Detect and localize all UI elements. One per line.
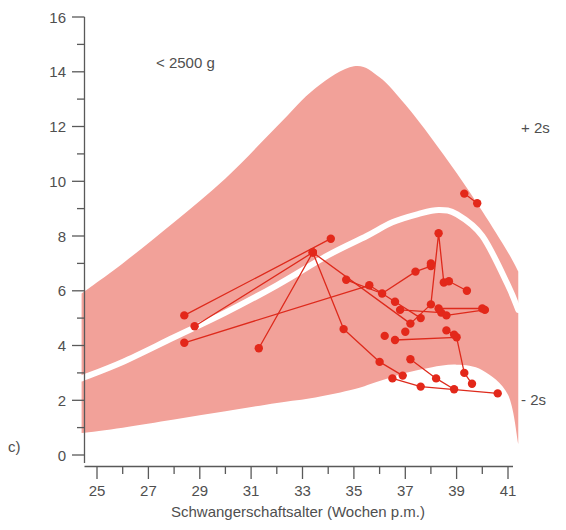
x-tick-label: 29 [191, 482, 208, 499]
x-tick-label: 37 [397, 482, 414, 499]
data-point [494, 389, 502, 397]
y-tick-label: 6 [58, 282, 66, 299]
x-tick-label: 33 [294, 482, 311, 499]
data-point [401, 328, 409, 336]
data-point [434, 229, 442, 237]
y-tick-label: 12 [49, 118, 66, 135]
data-point [339, 325, 347, 333]
data-point [434, 304, 442, 312]
data-point [450, 330, 458, 338]
x-axis-ticks [97, 467, 508, 480]
x-tick-label: 31 [243, 482, 260, 499]
data-point [460, 369, 468, 377]
growth-chart-svg: 0246810121416 252729313335373941 < 2500 … [0, 0, 566, 530]
data-point [417, 314, 425, 322]
data-point [391, 298, 399, 306]
data-point [442, 311, 450, 319]
data-point [399, 371, 407, 379]
data-point [427, 300, 435, 308]
data-point [327, 235, 335, 243]
y-tick-label: 14 [49, 63, 66, 80]
data-point [445, 277, 453, 285]
data-point [406, 319, 414, 327]
x-tick-label: 27 [140, 482, 157, 499]
x-tick-label: 39 [448, 482, 465, 499]
data-point [255, 344, 263, 352]
data-point [180, 339, 188, 347]
y-tick-label: 4 [58, 337, 66, 354]
y-axis: 0246810121416 [49, 9, 84, 464]
data-point [468, 380, 476, 388]
data-point [375, 358, 383, 366]
x-tick-label: 35 [346, 482, 363, 499]
series-line [392, 378, 497, 393]
data-point [378, 289, 386, 297]
data-point [427, 259, 435, 267]
y-tick-label: 8 [58, 228, 66, 245]
x-axis-tick-labels: 252729313335373941 [89, 482, 517, 499]
data-point [388, 374, 396, 382]
upper-limit-label: + 2s [521, 119, 550, 136]
x-tick-label: 41 [500, 482, 517, 499]
x-axis: 252729313335373941 [85, 467, 517, 500]
y-tick-label: 2 [58, 392, 66, 409]
data-point [478, 304, 486, 312]
data-point [463, 287, 471, 295]
data-point [417, 382, 425, 390]
data-point [190, 322, 198, 330]
data-point [180, 311, 188, 319]
x-tick-label: 25 [89, 482, 106, 499]
y-tick-label: 16 [49, 9, 66, 26]
data-point [460, 189, 468, 197]
y-tick-label: 0 [58, 447, 66, 464]
data-point [432, 374, 440, 382]
data-point [391, 336, 399, 344]
data-point [396, 306, 404, 314]
x-axis-title: Schwangerschaftsalter (Wochen p.m.) [171, 503, 425, 520]
chart-container: 0246810121416 252729313335373941 < 2500 … [0, 0, 566, 530]
y-tick-label: 10 [49, 173, 66, 190]
data-point [473, 199, 481, 207]
data-point [381, 332, 389, 340]
data-point [406, 355, 414, 363]
lower-limit-label: - 2s [521, 391, 546, 408]
data-point [411, 267, 419, 275]
data-point [342, 276, 350, 284]
data-point [442, 326, 450, 334]
group-annotation-label: < 2500 g [156, 54, 215, 71]
y-axis-tick-labels: 0246810121416 [49, 9, 66, 464]
panel-label: c) [8, 438, 21, 455]
data-point [309, 248, 317, 256]
